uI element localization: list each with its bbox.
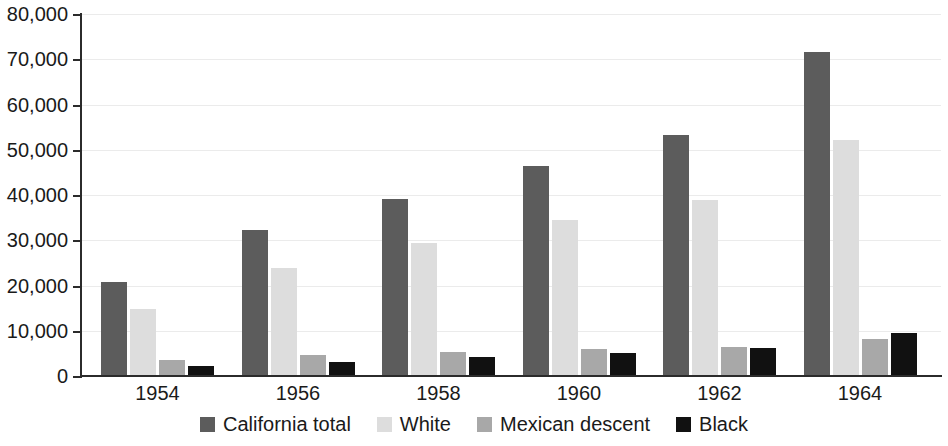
legend-item[interactable]: White	[377, 414, 451, 434]
legend-swatch-black	[676, 417, 691, 432]
legend-label: White	[400, 414, 451, 434]
bar-group	[804, 14, 920, 376]
bar	[411, 243, 437, 376]
x-axis-tick-label: 1956	[238, 382, 358, 404]
bar-group	[523, 14, 639, 376]
y-axis-tick-mark	[73, 376, 82, 378]
bar	[271, 268, 297, 376]
legend-item[interactable]: Mexican descent	[477, 414, 650, 434]
bar	[300, 355, 326, 376]
bar-chart: 010,00020,00030,00040,00050,00060,00070,…	[0, 0, 948, 446]
bar	[721, 347, 747, 376]
bar	[242, 230, 268, 376]
bar	[833, 140, 859, 376]
y-axis-tick-mark	[73, 150, 82, 152]
y-axis-tick-mark	[73, 59, 82, 61]
bar-group	[382, 14, 498, 376]
x-axis-tick-label: 1964	[800, 382, 920, 404]
y-axis-tick-mark	[73, 240, 82, 242]
bar	[329, 362, 355, 376]
legend-swatch-white	[377, 417, 392, 432]
bar	[159, 360, 185, 376]
x-axis-line	[80, 375, 942, 377]
x-axis-tick-label: 1958	[379, 382, 499, 404]
bar	[130, 309, 156, 376]
bar	[891, 333, 917, 376]
x-axis-tick-label: 1962	[660, 382, 780, 404]
bar	[862, 339, 888, 376]
y-axis-tick-label: 20,000	[7, 276, 68, 296]
bar	[469, 357, 495, 376]
y-axis-tick-mark	[73, 286, 82, 288]
y-axis-tick-label: 30,000	[7, 230, 68, 250]
legend-item[interactable]: Black	[676, 414, 748, 434]
bar	[804, 52, 830, 376]
y-axis-tick-label: 70,000	[7, 49, 68, 69]
legend-swatch-mexican-descent	[477, 417, 492, 432]
bar-group	[242, 14, 358, 376]
x-axis-tick-label: 1960	[519, 382, 639, 404]
bar	[663, 135, 689, 376]
bar-group	[663, 14, 779, 376]
bar	[552, 220, 578, 376]
bar	[382, 199, 408, 376]
x-axis-tick-label: 1954	[98, 382, 218, 404]
bar	[440, 352, 466, 376]
y-axis-labels: 010,00020,00030,00040,00050,00060,00070,…	[0, 0, 68, 446]
legend-label: Mexican descent	[500, 414, 650, 434]
legend-label: Black	[699, 414, 748, 434]
legend-swatch-california-total	[200, 417, 215, 432]
legend-item[interactable]: California total	[200, 414, 351, 434]
y-axis-tick-mark	[73, 14, 82, 16]
y-axis-tick-label: 0	[57, 366, 68, 386]
bar	[750, 348, 776, 376]
bar	[101, 282, 127, 376]
y-axis-tick-mark	[73, 331, 82, 333]
y-axis-tick-label: 40,000	[7, 185, 68, 205]
bar	[692, 200, 718, 376]
legend: California totalWhiteMexican descentBlac…	[0, 414, 948, 434]
y-axis-tick-mark	[73, 195, 82, 197]
bar	[523, 166, 549, 376]
y-axis-tick-label: 80,000	[7, 4, 68, 24]
bar	[581, 349, 607, 376]
bar	[610, 353, 636, 376]
y-axis-tick-label: 10,000	[7, 321, 68, 341]
legend-label: California total	[223, 414, 351, 434]
bar-group	[101, 14, 217, 376]
y-axis-tick-label: 60,000	[7, 95, 68, 115]
y-axis-tick-mark	[73, 105, 82, 107]
plot-area	[81, 14, 941, 376]
y-axis-tick-label: 50,000	[7, 140, 68, 160]
